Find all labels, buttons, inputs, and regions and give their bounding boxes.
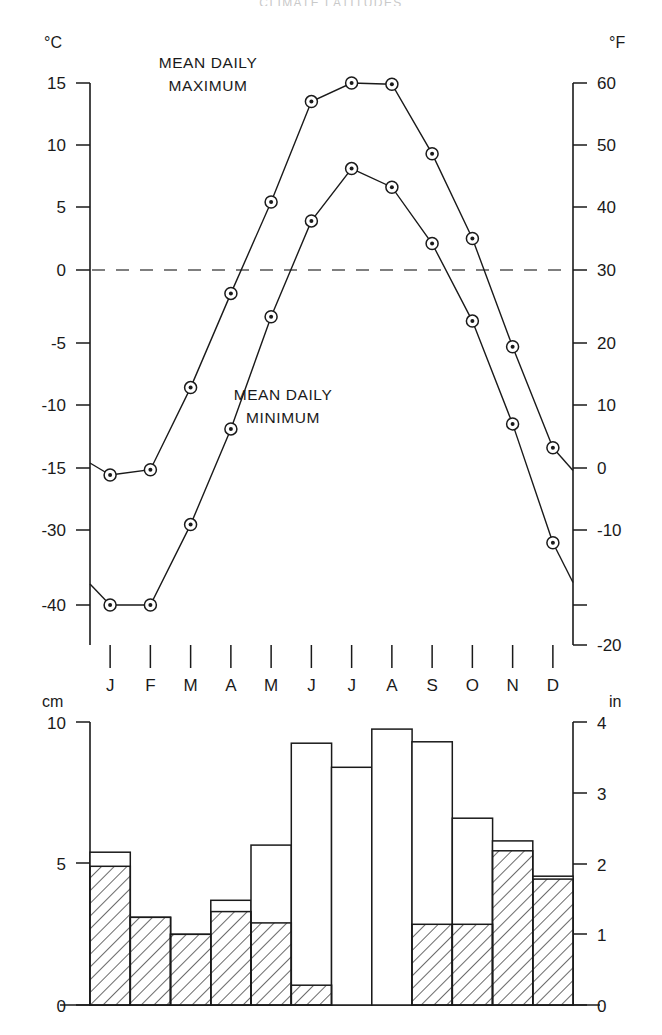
annotation-mean-daily-maximum: MEAN DAILY MAXIMUM: [159, 54, 258, 94]
temp-right-tick-label: 20: [597, 334, 616, 353]
precip-left-unit-label: cm: [42, 693, 63, 710]
precip-snow-bar: [412, 924, 452, 1005]
precip-left-tick-label: 0: [57, 997, 66, 1016]
temp-right-tick-label: -10: [597, 521, 622, 540]
temp-left-tick-label: -10: [41, 396, 66, 415]
series-line-mean-daily-maximum: [90, 83, 573, 475]
data-point: [265, 196, 277, 208]
month-label-d-11: D: [547, 676, 559, 695]
temp-right-tick-label: 0: [597, 459, 606, 478]
data-point: [426, 238, 438, 250]
data-point: [225, 423, 237, 435]
temp-right-tick-label: 30: [597, 261, 616, 280]
precipitation-panel: cm in 10 5 0 4 3 2 1 0: [42, 693, 621, 1016]
precip-snow-bar: [211, 912, 251, 1005]
data-point: [507, 418, 519, 430]
data-point: [144, 464, 156, 476]
month-label-j-0: J: [106, 676, 115, 695]
data-point: [386, 181, 398, 193]
temp-left-tick-label: 10: [47, 136, 66, 155]
precip-snow-bar: [171, 934, 211, 1005]
temp-left-unit-label: °C: [44, 34, 62, 51]
temp-right-ticks: [573, 83, 587, 645]
data-point: [547, 537, 559, 549]
month-label-m-2: M: [184, 676, 198, 695]
precip-left-ticks: [76, 722, 90, 1005]
precip-snow-bar: [493, 851, 533, 1005]
temp-right-unit-label: °F: [609, 34, 625, 51]
data-point: [547, 442, 559, 454]
temp-left-tick-label: 5: [57, 198, 66, 217]
data-point: [305, 96, 317, 108]
data-point: [346, 77, 358, 89]
data-point: [305, 215, 317, 227]
temp-right-tick-label: 60: [597, 74, 616, 93]
precip-right-tick-label: 2: [597, 856, 606, 875]
data-point: [185, 382, 197, 394]
temp-left-ticks: [76, 83, 90, 605]
month-label-a-3: A: [225, 676, 237, 695]
data-point: [507, 341, 519, 353]
data-point: [185, 519, 197, 531]
precip-right-tick-label: 0: [597, 997, 606, 1016]
data-point: [346, 163, 358, 175]
temp-left-tick-label: -30: [41, 521, 66, 540]
precip-snow-bar: [130, 917, 170, 1005]
data-point: [466, 315, 478, 327]
precip-snow-bar: [452, 924, 492, 1005]
temp-left-tick-label: 0: [57, 261, 66, 280]
precip-snow-bar: [90, 866, 130, 1005]
temp-left-tick-label: -40: [41, 596, 66, 615]
precip-bar: [291, 743, 331, 1005]
data-point: [104, 599, 116, 611]
temp-month-ticks: [110, 645, 553, 668]
data-point: [426, 148, 438, 160]
month-label-f-1: F: [145, 676, 155, 695]
annotation-mean-daily-minimum: MEAN DAILY MINIMUM: [234, 386, 333, 426]
precip-bar: [332, 767, 372, 1005]
temp-month-labels: JFMAMJJASOND: [106, 676, 559, 695]
month-label-m-4: M: [264, 676, 278, 695]
precip-snow-bar: [291, 985, 331, 1005]
data-point: [386, 78, 398, 90]
temp-right-tick-label: 10: [597, 396, 616, 415]
annot-min-line1: MEAN DAILY: [234, 386, 333, 403]
annot-min-line2: MINIMUM: [246, 409, 320, 426]
data-point: [144, 599, 156, 611]
precip-snow-bar: [251, 923, 291, 1005]
month-label-o-9: O: [466, 676, 479, 695]
temperature-panel: °C °F 15 10 5 0 -5 -10 -15 -30 -40 60 50…: [41, 34, 625, 695]
month-label-a-7: A: [386, 676, 398, 695]
mean-daily-maximum-path: [110, 83, 553, 475]
month-label-j-6: J: [347, 676, 356, 695]
temp-right-tick-label: 50: [597, 136, 616, 155]
data-point: [466, 233, 478, 245]
month-label-n-10: N: [506, 676, 518, 695]
precip-right-tick-label: 4: [597, 714, 606, 733]
precip-right-unit-label: in: [609, 693, 621, 710]
precip-right-ticks: [573, 722, 587, 1005]
temp-right-tick-label: 40: [597, 198, 616, 217]
month-label-j-5: J: [307, 676, 316, 695]
annot-max-line1: MEAN DAILY: [159, 54, 258, 71]
annot-max-line2: MAXIMUM: [168, 77, 247, 94]
month-label-s-8: S: [426, 676, 437, 695]
temp-left-tick-label: -5: [51, 334, 66, 353]
precip-snow-bar: [533, 879, 573, 1005]
precip-left-tick-label: 5: [57, 855, 66, 874]
temp-left-tick-label: -15: [41, 459, 66, 478]
precip-right-tick-label: 3: [597, 785, 606, 804]
climograph-figure: CLIMATE LATITUDES: [0, 0, 662, 1035]
data-point: [265, 311, 277, 323]
precip-right-tick-label: 1: [597, 926, 606, 945]
temp-left-tick-label: 15: [47, 74, 66, 93]
temp-right-tick-label: -20: [597, 636, 622, 655]
precip-bar: [372, 729, 412, 1005]
precip-left-tick-label: 10: [47, 714, 66, 733]
series-points-mean-daily-maximum: [104, 77, 559, 481]
climograph-canvas: °C °F 15 10 5 0 -5 -10 -15 -30 -40 60 50…: [0, 0, 662, 1035]
data-point: [104, 469, 116, 481]
data-point: [225, 287, 237, 299]
